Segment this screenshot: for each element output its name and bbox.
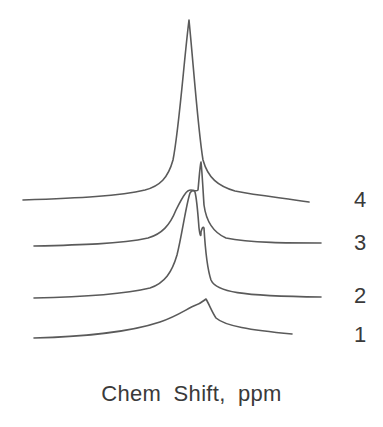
trace-label-3: 3 bbox=[354, 230, 366, 255]
trace-label-4: 4 bbox=[354, 187, 366, 212]
nmr-spectra-plot: 4 3 2 1 bbox=[0, 0, 383, 427]
trace-3 bbox=[34, 162, 321, 246]
trace-1 bbox=[34, 299, 292, 338]
trace-4 bbox=[23, 20, 309, 202]
x-axis-label: Chem Shift, ppm bbox=[0, 381, 383, 407]
trace-label-1: 1 bbox=[354, 322, 366, 347]
trace-label-2: 2 bbox=[354, 283, 366, 308]
